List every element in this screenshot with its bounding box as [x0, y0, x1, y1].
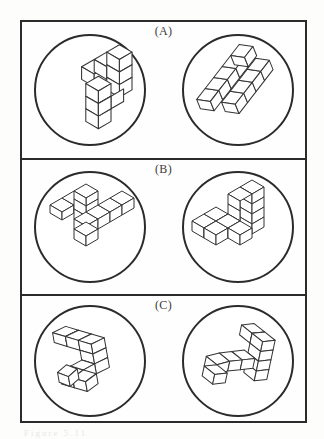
polycube-a-right: [182, 34, 294, 146]
polycube-a-left: [34, 34, 146, 146]
stimulus-c-right[interactable]: [182, 305, 294, 417]
stimulus-c-left[interactable]: [34, 305, 146, 417]
panel-a: (A): [22, 22, 305, 158]
polycube-c-right: [182, 305, 294, 417]
figure-root: (A): [0, 0, 324, 439]
stimulus-b-right[interactable]: [182, 171, 294, 283]
stimulus-b-left[interactable]: [34, 171, 146, 283]
stimulus-a-left[interactable]: [34, 34, 146, 146]
stimulus-a-right[interactable]: [182, 34, 294, 146]
figure-frame: (A): [20, 20, 307, 423]
polycube-c-left: [34, 305, 146, 417]
polycube-b-left: [34, 171, 146, 283]
scan-smudge: Figure 5.11: [24, 428, 87, 438]
polycube-b-right: [182, 171, 294, 283]
panel-b: (B): [22, 158, 305, 294]
panel-c: (C): [22, 294, 305, 425]
